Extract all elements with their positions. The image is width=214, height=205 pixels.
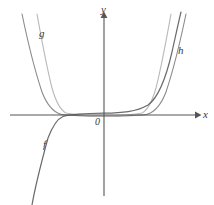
origin-label: 0 xyxy=(95,117,100,127)
graph-canvas xyxy=(0,0,214,205)
curve-label-h: h xyxy=(178,45,184,56)
curve-label-g: g xyxy=(39,28,45,39)
graph-figure: y x 0 f g h xyxy=(0,0,214,205)
x-axis-arrow-icon xyxy=(195,112,202,119)
curve-f xyxy=(32,12,181,205)
curve-label-f: f xyxy=(43,139,46,150)
y-axis-label: y xyxy=(101,4,106,15)
x-axis-label: x xyxy=(203,109,208,120)
